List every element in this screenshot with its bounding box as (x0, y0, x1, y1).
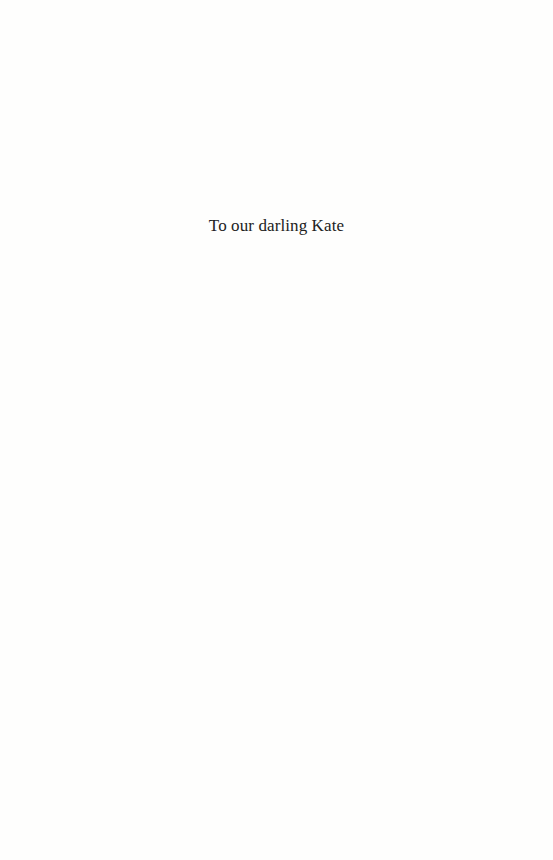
dedication-text: To our darling Kate (0, 216, 553, 236)
book-page: To our darling Kate (0, 0, 553, 860)
